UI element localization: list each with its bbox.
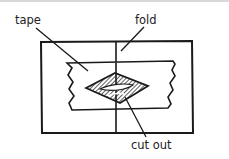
fold-leader-line <box>121 27 144 51</box>
cutout-label: cut out <box>131 140 172 152</box>
fold-label: fold <box>135 15 157 27</box>
tape-label: tape <box>15 15 41 27</box>
diagram-canvas: tape fold cut out <box>0 0 229 159</box>
tape-leader-line <box>36 28 88 71</box>
